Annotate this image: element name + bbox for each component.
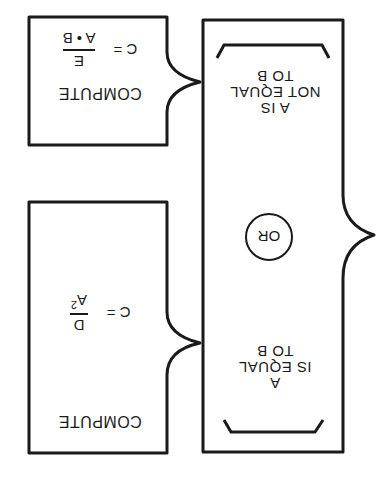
or-label: OR bbox=[258, 229, 281, 246]
condition-line: TO B bbox=[215, 68, 335, 84]
condition-line: TO B bbox=[215, 343, 335, 359]
numerator: D bbox=[70, 313, 89, 334]
compute-box-not-equal: COMPUTE C = E A • B bbox=[40, 30, 160, 102]
formula-lhs: C = bbox=[114, 42, 138, 59]
denominator-base: A bbox=[77, 292, 87, 309]
condition-line: A bbox=[215, 375, 335, 391]
numerator: E bbox=[63, 49, 96, 70]
fraction: D A2 bbox=[70, 292, 89, 334]
exponent: 2 bbox=[71, 299, 77, 311]
condition-line: NOT EQUAL bbox=[215, 84, 335, 100]
denominator: A • B bbox=[63, 30, 96, 49]
condition-equal: A IS EQUAL TO B bbox=[215, 343, 335, 391]
formula: C = D A2 bbox=[40, 292, 160, 334]
condition-line: A IS bbox=[215, 100, 335, 116]
condition-line: IS EQUAL bbox=[215, 359, 335, 375]
compute-box-equal: COMPUTE C = D A2 bbox=[40, 240, 160, 430]
or-connector: OR bbox=[245, 213, 293, 261]
fraction: E A • B bbox=[63, 30, 96, 70]
compute-title: COMPUTE bbox=[40, 84, 160, 102]
bracket-top bbox=[217, 45, 329, 58]
bracket-bottom bbox=[224, 420, 323, 432]
formula: C = E A • B bbox=[40, 30, 160, 70]
compute-title: COMPUTE bbox=[40, 412, 160, 430]
formula-lhs: C = bbox=[107, 305, 131, 322]
denominator: A2 bbox=[70, 292, 89, 313]
condition-not-equal: A IS NOT EQUAL TO B bbox=[215, 68, 335, 116]
